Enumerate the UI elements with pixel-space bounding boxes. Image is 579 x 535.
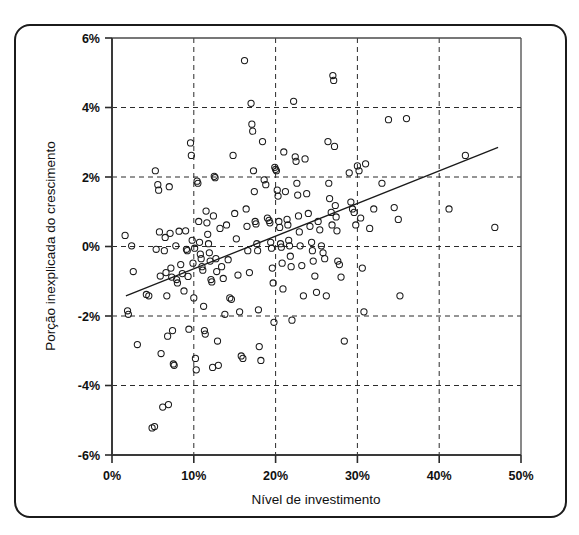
scatter-point (237, 309, 243, 315)
x-tick-label: 50% (508, 469, 533, 483)
scatter-point (251, 188, 257, 194)
scatter-point (275, 193, 281, 199)
scatter-point (271, 319, 277, 325)
scatter-point (259, 138, 265, 144)
scatter-point (371, 206, 377, 212)
scatter-point (187, 140, 193, 146)
y-tick-label: 6% (82, 32, 100, 46)
scatter-point (280, 286, 286, 292)
scatter-point (304, 191, 310, 197)
scatter-point (122, 232, 128, 238)
scatter-point (318, 243, 324, 249)
scatter-point (341, 338, 347, 344)
scatter-point (326, 195, 332, 201)
x-tick-label: 0% (103, 469, 121, 483)
scatter-point (300, 293, 306, 299)
scatter-point (309, 248, 315, 254)
scatter-point (367, 225, 373, 231)
scatter-point (299, 263, 305, 269)
scatter-point (294, 180, 300, 186)
x-tick-label: 40% (427, 469, 452, 483)
scatter-point (244, 223, 250, 229)
scatter-point (359, 265, 365, 271)
scatter-point (230, 152, 236, 158)
y-axis-title: Porção inexplicada do crescimento (43, 141, 58, 350)
y-tick-label: 2% (82, 171, 100, 185)
scatter-point (206, 250, 212, 256)
scatter-point (305, 210, 311, 216)
scatter-point (183, 228, 189, 234)
scatter-point (310, 258, 316, 264)
scatter-point (190, 260, 196, 266)
scatter-point (492, 224, 498, 230)
scatter-point (268, 245, 274, 251)
scatter-point (287, 253, 293, 259)
scatter-point (258, 357, 264, 363)
scatter-point (291, 98, 297, 104)
scatter-point (362, 161, 368, 167)
scatter-point (379, 180, 385, 186)
scatter-point (176, 228, 182, 234)
scatter-point (219, 264, 225, 270)
scatter-point (395, 216, 401, 222)
scatter-point (225, 257, 231, 263)
scatter-point (246, 269, 252, 275)
y-tick-label: -4% (78, 379, 100, 393)
scatter-point (196, 218, 202, 224)
scatter-point (205, 231, 211, 237)
y-tick-label: -6% (78, 449, 100, 463)
y-tick-label: -2% (78, 310, 100, 324)
scatter-point (293, 158, 299, 164)
scatter-point (338, 274, 344, 280)
x-tick-label: 10% (181, 469, 206, 483)
x-tick-labels: 0%10%20%30%40%50% (103, 469, 534, 483)
scatter-point (130, 268, 136, 274)
plot-axes (112, 38, 521, 455)
scatter-point (255, 307, 261, 313)
scatter-point (297, 243, 303, 249)
scatter-point (403, 116, 409, 122)
scatter-point (215, 362, 221, 368)
scatter-point (189, 237, 195, 243)
scatter-point (250, 168, 256, 174)
scatter-point (203, 208, 209, 214)
scatter-point (181, 288, 187, 294)
y-tick-label: 4% (82, 101, 100, 115)
scatter-point (232, 210, 238, 216)
scatter-point (322, 256, 328, 262)
scatter-point (256, 343, 262, 349)
scatter-point (307, 223, 313, 229)
scatter-point (228, 296, 234, 302)
scatter-point (196, 239, 202, 245)
scatter-point (255, 248, 261, 254)
scatter-point (317, 227, 323, 233)
scatter-point (295, 192, 301, 198)
scatter-point (153, 246, 159, 252)
trendline (126, 147, 498, 295)
scatter-point (217, 225, 223, 231)
x-tick-label: 20% (263, 469, 288, 483)
scatter-point (186, 326, 192, 332)
scatter-point (358, 215, 364, 221)
scatter-point (397, 293, 403, 299)
scatter-point (313, 289, 319, 295)
scatter-point (249, 121, 255, 127)
x-tick-label: 30% (345, 469, 370, 483)
scatter-point (346, 170, 352, 176)
scatter-point (282, 188, 288, 194)
scatter-point (323, 293, 329, 299)
scatter-point (326, 180, 332, 186)
scatter-point (235, 272, 241, 278)
scatter-point (243, 206, 249, 212)
scatter-point (295, 213, 301, 219)
scatter-point (296, 229, 302, 235)
figure-root: 0%10%20%30%40%50% 6%4%2%0%-2%-4%-6% Níve… (0, 0, 579, 535)
scatter-point (210, 213, 216, 219)
scatter-point (166, 184, 172, 190)
scatter-point (334, 228, 340, 234)
scatter-point (277, 224, 283, 230)
scatter-point (185, 273, 191, 279)
scatter-point (178, 261, 184, 267)
scatter-point (152, 168, 158, 174)
scatter-point (223, 222, 229, 228)
